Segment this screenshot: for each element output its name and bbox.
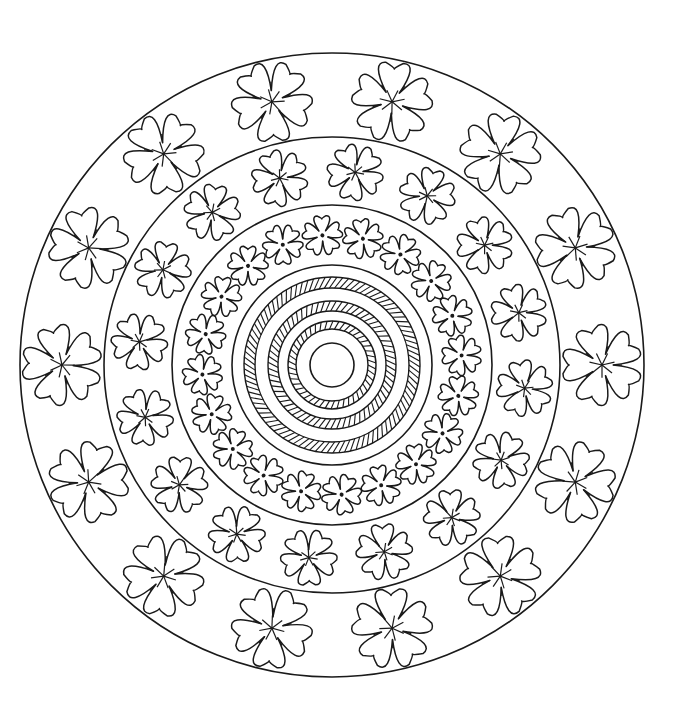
rope-stripe [282, 293, 283, 306]
flower-center-dot [231, 447, 235, 451]
rope-stripe [355, 310, 364, 316]
rope-stripe [293, 384, 302, 385]
flower [190, 392, 233, 436]
flower-center-star [592, 365, 602, 373]
flower-center-star [427, 191, 436, 200]
rope-stripe [365, 379, 371, 386]
flower-center-star [443, 518, 452, 519]
rope-stripe [368, 370, 375, 375]
flower-center-star [567, 482, 576, 491]
rope-stripe [331, 401, 335, 409]
flower-center-star [54, 352, 67, 365]
rope-stripe [384, 350, 395, 353]
flower [33, 192, 145, 304]
rope-stripe [343, 399, 344, 408]
rope-stripe [378, 299, 391, 303]
petal-divider [555, 476, 564, 485]
flower [457, 217, 511, 274]
rope-stripe [277, 297, 279, 310]
flower-center-star [384, 618, 392, 628]
petal-divider [494, 165, 503, 174]
flower [213, 428, 253, 469]
rope-stripe [362, 435, 365, 448]
petal-divider [421, 203, 427, 209]
petal-divider [150, 584, 156, 590]
rope-stripe [253, 403, 266, 404]
rope-stripe [296, 312, 298, 323]
rope-stripe [343, 417, 346, 428]
rope-stripe [382, 303, 395, 306]
rope-stripe [368, 360, 376, 363]
petal-divider [382, 491, 383, 495]
flower-center-star [478, 245, 485, 251]
flower-center-star [590, 362, 603, 365]
flower-center-star [575, 247, 586, 256]
flower [109, 381, 181, 455]
petal-divider [487, 455, 493, 461]
petal-divider [508, 139, 514, 145]
flower-center-star [492, 455, 501, 464]
flower [220, 238, 276, 293]
rope-stripe [268, 362, 278, 367]
rope-stripe [360, 388, 364, 396]
petal-divider [259, 637, 265, 644]
flower [174, 175, 250, 250]
rope-stripe [386, 370, 395, 377]
flower-center-dot [360, 236, 365, 241]
rope-stripe [248, 392, 261, 395]
flower-center-star [422, 196, 431, 205]
rope-stripe [331, 301, 337, 311]
flower-center-star [89, 238, 98, 248]
rope-stripe [325, 401, 329, 409]
rope-stripe [351, 307, 360, 314]
flower-center-star [164, 153, 177, 154]
flower-center-star [602, 365, 612, 373]
flower-center-star [570, 482, 583, 495]
flower-center-star [266, 615, 279, 628]
rope-stripe [335, 322, 339, 330]
rope-band-inner [296, 329, 368, 401]
rope-stripe [245, 381, 257, 386]
flower-center-star [427, 196, 433, 203]
flower-center-star [81, 235, 94, 248]
rope-stripe [300, 282, 303, 295]
flower [262, 225, 303, 265]
rope-stripe [357, 336, 365, 339]
rope-stripe [364, 409, 365, 420]
rope-stripe [384, 380, 392, 388]
flower-center-star [62, 359, 75, 372]
rope-stripe [245, 375, 257, 381]
rope-stripe [373, 295, 385, 300]
rope-stripe [319, 400, 325, 407]
rope-stripe [262, 417, 275, 418]
petal-divider [586, 246, 595, 247]
flower-center-dot [200, 372, 205, 377]
flower [108, 520, 220, 632]
flower-center-star [232, 525, 241, 534]
petal-divider [269, 608, 278, 617]
flower-center-star [512, 313, 519, 319]
petal-divider [162, 134, 163, 143]
rope-stripe [274, 427, 287, 431]
flower-center-star [151, 571, 164, 584]
flower-center-star [524, 388, 532, 394]
petal-divider [421, 278, 425, 282]
rope-stripe [283, 404, 294, 407]
flower-center-star [62, 355, 70, 365]
flower [270, 519, 348, 596]
rope-stripe [346, 305, 354, 313]
flower-center-star [495, 460, 502, 466]
rope-stripe [288, 367, 296, 370]
rope-stripe [386, 360, 396, 365]
rope-stripe [292, 410, 302, 415]
rope-stripe [353, 332, 361, 336]
rope-stripe [247, 386, 260, 390]
rope-stripe [250, 398, 263, 400]
rope-stripe [313, 418, 321, 426]
petal-divider [69, 483, 78, 484]
flower [374, 228, 427, 281]
flower [48, 439, 131, 525]
rope-stripe [386, 308, 399, 310]
rope-stripe [389, 417, 392, 430]
rope-stripe [386, 365, 396, 371]
